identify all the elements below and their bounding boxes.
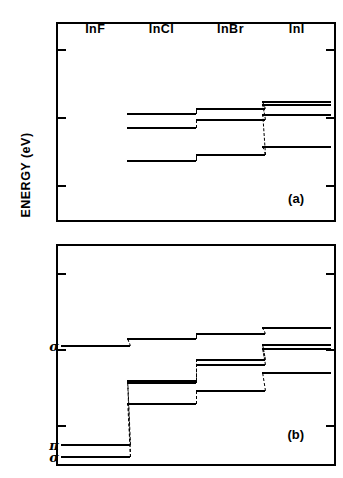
energy-level [196,119,265,121]
level-connector [196,365,197,384]
panel-b: 51015σπσ (b) [56,244,336,466]
axis-tick-left [57,425,66,427]
column-header-incl: InCl [149,22,175,36]
energy-level [127,338,196,340]
energy-level [61,345,130,347]
axis-tick-right [326,117,335,119]
level-connector [196,391,197,404]
energy-level [127,403,196,405]
energy-level [61,444,130,446]
axis-tick-left [57,117,66,119]
y-axis-label: ENERGY (eV) [19,105,33,245]
level-connector [262,373,266,391]
axis-tick-right [326,185,335,187]
energy-level [61,456,130,458]
orbital-label-1: σ [49,338,61,353]
axis-tick-left [57,185,66,187]
energy-level [127,127,196,129]
energy-level [196,364,265,366]
energy-level [127,160,196,162]
axis-tick-right [326,49,335,51]
energy-level [196,390,265,392]
level-connector [196,109,197,114]
energy-level [196,359,265,361]
energy-level [262,372,331,374]
energy-level [196,154,265,156]
energy-level [262,146,331,148]
column-header-inbr: InBr [217,22,244,36]
energy-level [196,333,265,335]
column-header-inf: InF [85,22,105,36]
panel-a-tag: (a) [288,191,304,206]
energy-level [127,382,196,384]
level-connector [196,155,197,160]
energy-level [196,108,265,110]
energy-level [127,113,196,115]
energy-level [262,114,331,116]
energy-level [262,327,331,329]
panel-a: 51015InFInClInBrInI (a) [56,22,336,222]
energy-level [262,348,331,350]
column-header-ini: InI [289,22,305,36]
axis-tick-right [326,425,335,427]
energy-level [262,104,331,106]
axis-tick-left [57,273,66,275]
axis-tick-left [57,49,66,51]
axis-tick-right [326,273,335,275]
level-connector [196,120,197,128]
orbital-label-3: σ [49,450,61,465]
energy-level [262,101,331,103]
level-connector [196,334,197,339]
panel-b-tag: (b) [287,427,304,442]
energy-level [262,344,331,346]
